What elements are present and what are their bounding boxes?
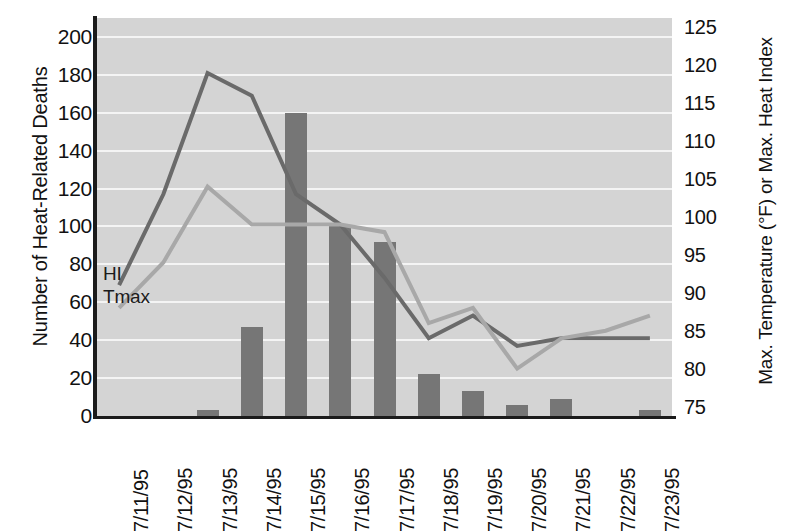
y-axis-right-tick-label: 90 xyxy=(684,283,744,303)
x-axis-tick-label: 7/17/95 xyxy=(396,422,419,532)
x-axis-tick-label: 7/19/95 xyxy=(484,422,507,532)
x-axis-tick-label: 7/23/95 xyxy=(661,422,684,532)
x-axis-tick-label: 7/11/95 xyxy=(130,422,153,532)
y-axis-left-tick-label: 200 xyxy=(22,26,92,47)
y-axis-left-tick-label: 160 xyxy=(22,102,92,123)
y-axis-left-tick-label: 100 xyxy=(22,215,92,236)
y-axis-right-tick-label: 125 xyxy=(684,17,744,37)
y-axis-right-tick-label: 85 xyxy=(684,321,744,341)
y-axis-left-tick-label: 120 xyxy=(22,178,92,199)
y-axis-right-tick-label: 95 xyxy=(684,245,744,265)
y-axis-right-tick-label: 80 xyxy=(684,359,744,379)
x-axis-tick-label: 7/15/95 xyxy=(307,422,330,532)
y-axis-left-tick-label: 80 xyxy=(22,253,92,274)
x-axis-tick-label: 7/18/95 xyxy=(440,422,463,532)
y-axis-right-title: Max. Temperature (°F) or Max. Heat Index xyxy=(755,1,777,421)
x-axis-tick-label: 7/14/95 xyxy=(263,422,286,532)
y-axis-right-tick-label: 75 xyxy=(684,397,744,417)
y-axis-right-tick-label: 110 xyxy=(684,131,744,151)
x-axis-tick-label: 7/20/95 xyxy=(528,422,551,532)
line-hi xyxy=(119,73,650,346)
x-axis-line xyxy=(93,416,676,419)
series-label-hi: HI xyxy=(103,263,122,285)
y-axis-left-tick-label: 140 xyxy=(22,140,92,161)
x-axis-tick-label: 7/22/95 xyxy=(617,422,640,532)
series-label-tmax: Tmax xyxy=(103,286,150,308)
y-axis-left-tick-label: 0 xyxy=(22,405,92,426)
x-axis-tick-label: 7/12/95 xyxy=(174,422,197,532)
plot-area: HITmax xyxy=(97,18,672,416)
y-axis-left-tick-label: 40 xyxy=(22,329,92,350)
y-axis-right-tick-label: 100 xyxy=(684,207,744,227)
y-axis-right-tick-label: 115 xyxy=(684,93,744,113)
y-axis-left-tick-label: 60 xyxy=(22,291,92,312)
y-axis-right-tick-label: 120 xyxy=(684,55,744,75)
line-series xyxy=(97,18,672,416)
x-axis-tick-label: 7/16/95 xyxy=(351,422,374,532)
y-axis-left-tick-label: 180 xyxy=(22,64,92,85)
y-axis-left-tick-label: 20 xyxy=(22,367,92,388)
x-axis-tick-label: 7/13/95 xyxy=(219,422,242,532)
x-axis-tick-label: 7/21/95 xyxy=(572,422,595,532)
y-axis-right-tick-label: 105 xyxy=(684,169,744,189)
